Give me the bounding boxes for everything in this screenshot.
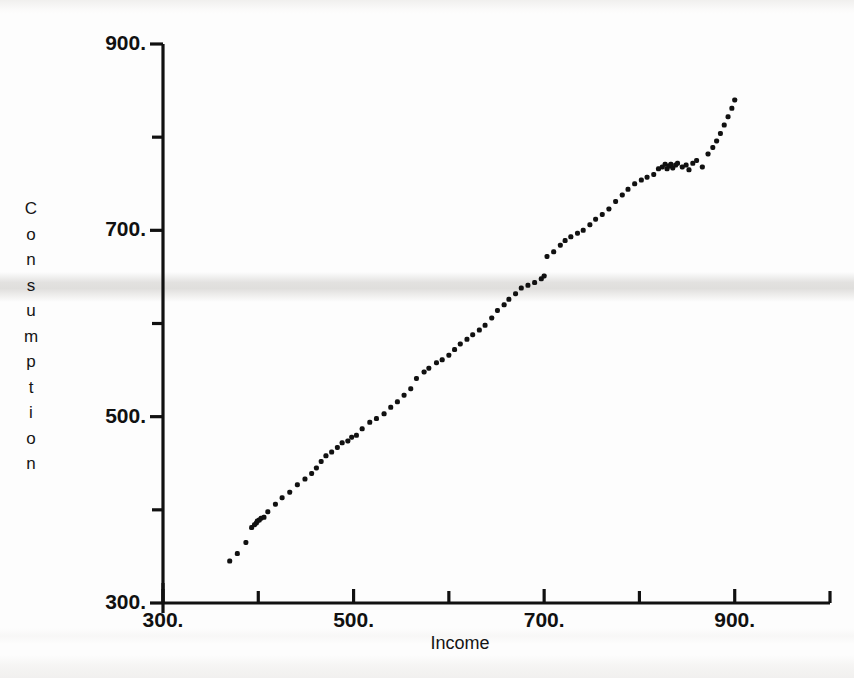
y-axis-title-letter: i bbox=[18, 400, 44, 426]
y-axis-title: Consumption bbox=[18, 196, 44, 477]
data-point bbox=[545, 254, 550, 259]
y-axis-title-letter: o bbox=[18, 426, 44, 452]
data-point bbox=[639, 178, 644, 183]
data-point bbox=[426, 366, 431, 371]
y-axis-title-letter: u bbox=[18, 298, 44, 324]
data-point bbox=[551, 249, 556, 254]
data-point bbox=[532, 280, 537, 285]
data-point bbox=[340, 440, 345, 445]
data-point bbox=[349, 435, 354, 440]
data-point bbox=[620, 192, 625, 197]
data-point bbox=[335, 445, 340, 450]
y-axis-title-letter: o bbox=[18, 222, 44, 248]
data-point bbox=[542, 273, 547, 278]
data-point bbox=[235, 551, 240, 556]
data-point bbox=[227, 559, 232, 564]
data-point bbox=[446, 353, 451, 358]
data-point bbox=[495, 308, 500, 313]
data-point bbox=[345, 438, 350, 443]
data-point bbox=[581, 228, 586, 233]
data-point bbox=[722, 123, 727, 128]
y-axis-title-letter: n bbox=[18, 247, 44, 273]
data-point bbox=[502, 302, 507, 307]
data-point bbox=[382, 411, 387, 416]
x-tick-label: 700. bbox=[499, 608, 589, 632]
data-point bbox=[726, 114, 731, 119]
data-point bbox=[706, 151, 711, 156]
data-point bbox=[606, 206, 611, 211]
x-tick-label: 500. bbox=[309, 608, 399, 632]
scatter-plot-figure: 300.500.700.900. 300.500.700.900. Income… bbox=[0, 0, 854, 678]
data-point bbox=[470, 332, 475, 337]
data-point bbox=[243, 540, 248, 545]
y-tick-label: 900. bbox=[60, 31, 146, 55]
data-point bbox=[440, 357, 445, 362]
data-point bbox=[408, 386, 413, 391]
data-point bbox=[374, 416, 379, 421]
data-point bbox=[329, 450, 334, 455]
data-point bbox=[593, 217, 598, 222]
y-axis-title-letter: t bbox=[18, 375, 44, 401]
data-point bbox=[506, 297, 511, 302]
data-point bbox=[434, 360, 439, 365]
data-point bbox=[273, 502, 278, 507]
data-point bbox=[354, 433, 359, 438]
data-point bbox=[675, 161, 680, 166]
data-point bbox=[464, 337, 469, 342]
data-point bbox=[452, 347, 457, 352]
data-point bbox=[309, 471, 314, 476]
y-axis-title-letter: C bbox=[18, 196, 44, 222]
y-axis-title-letter: m bbox=[18, 324, 44, 350]
data-point bbox=[388, 405, 393, 410]
data-point bbox=[568, 234, 573, 239]
data-point bbox=[632, 181, 637, 186]
data-point bbox=[483, 323, 488, 328]
y-axis-title-letter: s bbox=[18, 273, 44, 299]
data-point bbox=[686, 167, 691, 172]
data-point bbox=[280, 495, 285, 500]
data-point bbox=[645, 175, 650, 180]
data-point bbox=[729, 106, 734, 111]
data-point bbox=[323, 453, 328, 458]
data-point bbox=[360, 426, 365, 431]
data-point bbox=[714, 138, 719, 143]
data-points bbox=[227, 97, 737, 563]
data-point bbox=[265, 509, 270, 514]
data-point bbox=[314, 465, 319, 470]
data-point bbox=[700, 164, 705, 169]
data-point bbox=[613, 199, 618, 204]
data-point bbox=[575, 231, 580, 236]
data-point bbox=[458, 341, 463, 346]
data-point bbox=[402, 393, 407, 398]
data-point bbox=[489, 315, 494, 320]
data-point bbox=[684, 163, 689, 168]
plot-canvas bbox=[0, 0, 854, 678]
data-point bbox=[563, 238, 568, 243]
data-point bbox=[694, 158, 699, 163]
data-point bbox=[718, 131, 723, 136]
data-point bbox=[302, 477, 307, 482]
data-point bbox=[587, 222, 592, 227]
data-point bbox=[710, 145, 715, 150]
data-point bbox=[414, 376, 419, 381]
data-point bbox=[651, 172, 656, 177]
data-point bbox=[477, 328, 482, 333]
data-point bbox=[513, 291, 518, 296]
data-point bbox=[367, 420, 372, 425]
data-point bbox=[625, 187, 630, 192]
y-tick-label: 500. bbox=[60, 404, 146, 428]
y-axis-title-letter: n bbox=[18, 451, 44, 477]
data-point bbox=[519, 286, 524, 291]
data-point bbox=[558, 243, 563, 248]
data-point bbox=[525, 283, 530, 288]
y-axis-ticks bbox=[150, 44, 163, 603]
data-point bbox=[295, 482, 300, 487]
data-point bbox=[600, 212, 605, 217]
data-point bbox=[287, 490, 292, 495]
y-tick-label: 700. bbox=[60, 217, 146, 241]
y-axis-title-letter: p bbox=[18, 349, 44, 375]
x-tick-label: 900. bbox=[690, 608, 780, 632]
x-axis-title: Income bbox=[380, 633, 540, 654]
x-tick-label: 300. bbox=[118, 608, 208, 632]
data-point bbox=[732, 97, 737, 102]
